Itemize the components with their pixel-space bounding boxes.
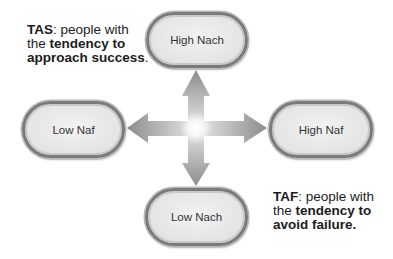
node-label: High Nach [170,34,224,46]
node-label: High Naf [299,124,344,136]
node-label: Low Nach [171,211,222,223]
node-high-nach: High Nach [146,12,248,68]
node-label: Low Naf [52,124,94,136]
node-low-naf: Low Naf [22,101,125,158]
node-low-nach: Low Nach [145,188,248,246]
node-high-naf: High Naf [269,101,373,158]
